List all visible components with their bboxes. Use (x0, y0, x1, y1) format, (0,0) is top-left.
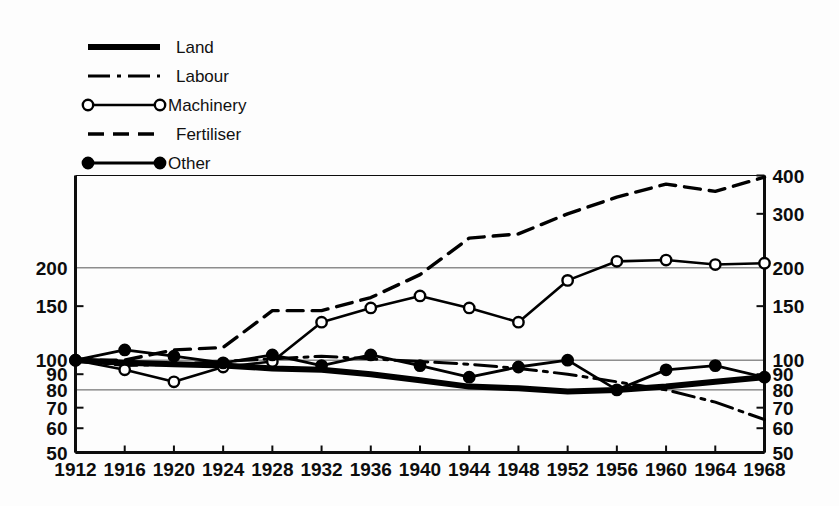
legend-item-labour: Labour (88, 67, 229, 86)
legend-label-other: Other (168, 154, 211, 173)
line-chart: 1912191619201924192819321936194019441948… (0, 0, 839, 506)
marker-machinery-1956 (612, 256, 622, 266)
legend-label-land: Land (176, 38, 214, 57)
legend-label-machinery: Machinery (168, 96, 247, 115)
marker-other-1920 (169, 351, 180, 362)
y-tick-label-right-400: 400 (773, 166, 805, 187)
marker-other-1944 (464, 372, 475, 383)
chart-container: 1912191619201924192819321936194019441948… (0, 0, 839, 506)
marker-other-1916 (119, 345, 130, 356)
legend-item-other: Other (83, 154, 211, 173)
y-tick-label-left-50: 50 (46, 443, 67, 464)
legend-marker-open-right (155, 100, 165, 110)
marker-other-1964 (710, 360, 721, 371)
x-tick-label-1964: 1964 (694, 459, 737, 480)
x-tick-label-1940: 1940 (399, 459, 441, 480)
marker-machinery-1964 (710, 259, 720, 269)
marker-other-1928 (267, 350, 278, 361)
x-tick-label-1952: 1952 (547, 459, 589, 480)
y-tick-label-right-50: 50 (773, 443, 794, 464)
y-tick-label-left-100: 100 (36, 350, 68, 371)
marker-other-1932 (316, 360, 327, 371)
x-tick-label-1920: 1920 (153, 459, 195, 480)
marker-other-1960 (661, 364, 672, 375)
y-tick-label-left-60: 60 (46, 418, 67, 439)
y-tick-label-right-300: 300 (773, 204, 805, 225)
x-tick-label-1948: 1948 (497, 459, 539, 480)
y-tick-label-right-200: 200 (773, 258, 805, 279)
legend-item-machinery: Machinery (83, 96, 247, 115)
x-tick-label-1944: 1944 (448, 459, 491, 480)
x-tick-label-1928: 1928 (251, 459, 293, 480)
y-tick-label-right-150: 150 (773, 296, 805, 317)
series-line-fertiliser (76, 177, 765, 360)
marker-other-1956 (611, 384, 622, 395)
legend-marker-filled-right (155, 158, 166, 169)
marker-machinery-1960 (661, 255, 671, 265)
marker-other-1968 (759, 372, 770, 383)
y-tick-label-left-150: 150 (36, 296, 68, 317)
legend-label-fertiliser: Fertiliser (176, 125, 242, 144)
y-axis-left-tick-labels: 5060708090100150200 (36, 258, 68, 464)
marker-other-1952 (562, 355, 573, 366)
legend-item-fertiliser: Fertiliser (88, 125, 242, 144)
marker-other-1940 (415, 360, 426, 371)
marker-machinery-1968 (759, 258, 769, 268)
legend-item-land: Land (88, 38, 214, 57)
marker-machinery-1920 (169, 377, 179, 387)
axis-ticks-group (76, 176, 765, 453)
marker-machinery-1944 (464, 303, 474, 313)
x-tick-label-1936: 1936 (350, 459, 392, 480)
chart-legend: LandLabourMachineryFertiliserOther (83, 38, 247, 173)
y-axis-right-tick-labels: 5060708090100150200300400 (773, 166, 805, 464)
x-tick-label-1932: 1932 (300, 459, 342, 480)
legend-marker-open-left (83, 100, 93, 110)
y-tick-label-right-100: 100 (773, 350, 805, 371)
y-tick-label-left-200: 200 (36, 258, 68, 279)
x-tick-label-1960: 1960 (645, 459, 687, 480)
x-axis-tick-labels: 1912191619201924192819321936194019441948… (54, 459, 785, 480)
y-tick-label-right-60: 60 (773, 418, 794, 439)
marker-machinery-1940 (415, 291, 425, 301)
marker-machinery-1948 (513, 317, 523, 327)
axis-frame-group (76, 176, 765, 453)
x-tick-label-1956: 1956 (596, 459, 638, 480)
marker-other-1948 (513, 362, 524, 373)
marker-other-1936 (365, 350, 376, 361)
legend-marker-filled-left (83, 158, 94, 169)
marker-machinery-1936 (366, 303, 376, 313)
legend-label-labour: Labour (176, 67, 229, 86)
marker-machinery-1952 (562, 275, 572, 285)
marker-other-1924 (218, 357, 229, 368)
marker-machinery-1916 (120, 365, 130, 375)
marker-machinery-1932 (316, 317, 326, 327)
x-tick-label-1916: 1916 (104, 459, 146, 480)
marker-other-1912 (70, 355, 81, 366)
x-tick-label-1924: 1924 (202, 459, 245, 480)
